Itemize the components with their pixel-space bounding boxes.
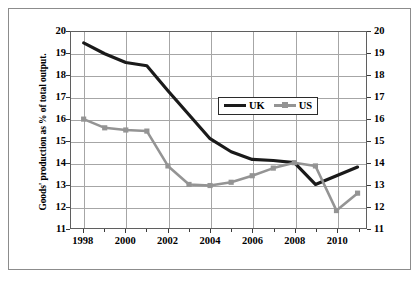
y-tick-mark-right-17 — [367, 97, 371, 98]
x-tick-mark-minor-2005 — [231, 229, 232, 232]
x-tick-label-2004: 2004 — [190, 234, 230, 247]
y-tick-label-left-12: 12 — [40, 201, 66, 213]
black-line-swatch — [224, 101, 246, 111]
y-tick-mark-right-16 — [367, 119, 371, 120]
y-tick-label-left-19: 19 — [40, 47, 66, 59]
data-point-us-1998 — [81, 117, 86, 122]
y-tick-mark-right-14 — [367, 163, 371, 164]
legend-square-marker-glyph — [282, 102, 288, 108]
x-tick-label-2006: 2006 — [232, 234, 272, 247]
y-tick-label-left-16: 16 — [40, 113, 66, 125]
data-point-us-1999 — [102, 125, 107, 130]
x-tick-mark-minor-2003 — [189, 229, 190, 232]
x-tick-mark-minor-2011 — [359, 229, 360, 232]
x-tick-mark-2006 — [252, 229, 253, 233]
y-tick-mark-right-13 — [367, 185, 371, 186]
legend-label-us: US — [299, 101, 312, 111]
y-tick-label-left-20: 20 — [40, 25, 66, 37]
x-tick-mark-2010 — [337, 229, 338, 233]
data-point-us-2008 — [292, 160, 297, 165]
gray-line-square-swatch — [274, 101, 296, 111]
legend-entry-uk: UK — [224, 101, 265, 111]
y-tick-mark-right-20 — [367, 31, 371, 32]
y-tick-label-right-13: 13 — [374, 179, 400, 191]
y-tick-label-right-19: 19 — [374, 47, 400, 59]
y-tick-label-right-16: 16 — [374, 113, 400, 125]
data-point-us-2000 — [123, 127, 128, 132]
y-tick-mark-right-12 — [367, 207, 371, 208]
y-tick-label-right-12: 12 — [374, 201, 400, 213]
data-point-us-2011 — [355, 191, 360, 196]
x-tick-mark-minor-1999 — [104, 229, 105, 232]
x-tick-mark-2008 — [295, 229, 296, 233]
data-point-us-2001 — [144, 129, 149, 134]
x-tick-label-2000: 2000 — [105, 234, 145, 247]
x-tick-label-2002: 2002 — [148, 234, 188, 247]
x-tick-mark-2002 — [168, 229, 169, 233]
y-tick-label-left-13: 13 — [40, 179, 66, 191]
plot-area — [70, 31, 367, 229]
data-series-layer — [71, 32, 366, 228]
chart-figure: Goods' production as % of total output. … — [0, 0, 419, 285]
x-tick-mark-minor-2007 — [274, 229, 275, 232]
y-tick-label-left-18: 18 — [40, 69, 66, 81]
legend-entry-us: US — [274, 101, 312, 111]
x-tick-mark-1998 — [83, 229, 84, 233]
data-point-us-2007 — [271, 166, 276, 171]
legend-label-uk: UK — [249, 101, 265, 111]
y-tick-label-right-11: 11 — [374, 223, 400, 235]
data-point-us-2003 — [186, 182, 191, 187]
chart-legend: UKUS — [218, 97, 318, 115]
x-tick-mark-minor-2001 — [146, 229, 147, 232]
y-tick-mark-right-19 — [367, 53, 371, 54]
y-tick-mark-right-15 — [367, 141, 371, 142]
y-tick-label-right-18: 18 — [374, 69, 400, 81]
legend-line-glyph — [224, 104, 246, 107]
data-point-us-2005 — [229, 180, 234, 185]
x-tick-mark-minor-2009 — [316, 229, 317, 232]
x-tick-label-2008: 2008 — [275, 234, 315, 247]
y-tick-label-right-20: 20 — [374, 25, 400, 37]
data-point-us-2006 — [250, 173, 255, 178]
y-tick-label-right-14: 14 — [374, 157, 400, 169]
y-tick-label-left-14: 14 — [40, 157, 66, 169]
y-tick-mark-left-11 — [66, 229, 70, 230]
x-tick-label-1998: 1998 — [63, 234, 103, 247]
data-point-us-2004 — [207, 183, 212, 188]
y-tick-label-right-15: 15 — [374, 135, 400, 147]
y-tick-label-right-17: 17 — [374, 91, 400, 103]
data-point-us-2002 — [165, 163, 170, 168]
data-point-us-2010 — [334, 208, 339, 213]
y-tick-mark-right-18 — [367, 75, 371, 76]
x-tick-mark-2000 — [125, 229, 126, 233]
y-tick-label-left-17: 17 — [40, 91, 66, 103]
y-tick-label-left-15: 15 — [40, 135, 66, 147]
x-tick-label-2010: 2010 — [317, 234, 357, 247]
data-point-us-2009 — [313, 163, 318, 168]
y-tick-mark-right-11 — [367, 229, 371, 230]
x-tick-mark-2004 — [210, 229, 211, 233]
